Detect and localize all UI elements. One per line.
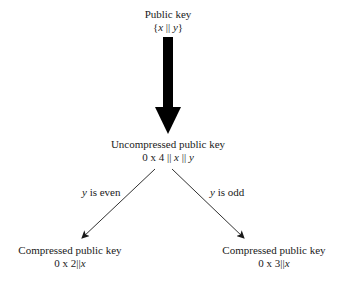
edge-even-label: y is even bbox=[82, 186, 121, 198]
compressed-odd-formula: 0 x 3||x bbox=[212, 257, 336, 270]
compressed-even-formula: 0 x 2||x bbox=[8, 257, 132, 270]
node-public-key: Public key {x || y} bbox=[118, 8, 218, 34]
edge-odd-label: y is odd bbox=[210, 186, 244, 198]
thick-down-arrow bbox=[155, 37, 181, 134]
public-key-formula: {x || y} bbox=[118, 21, 218, 34]
public-key-title: Public key bbox=[118, 8, 218, 21]
uncompressed-title: Uncompressed public key bbox=[98, 138, 238, 151]
node-uncompressed-public-key: Uncompressed public key 0 x 4 || x || y bbox=[98, 138, 238, 164]
edge-odd-arrow bbox=[172, 169, 244, 238]
node-compressed-even: Compressed public key 0 x 2||x bbox=[8, 244, 132, 270]
edge-even-arrow bbox=[82, 169, 155, 238]
uncompressed-formula: 0 x 4 || x || y bbox=[98, 151, 238, 164]
compressed-odd-title: Compressed public key bbox=[212, 244, 336, 257]
compressed-even-title: Compressed public key bbox=[8, 244, 132, 257]
node-compressed-odd: Compressed public key 0 x 3||x bbox=[212, 244, 336, 270]
